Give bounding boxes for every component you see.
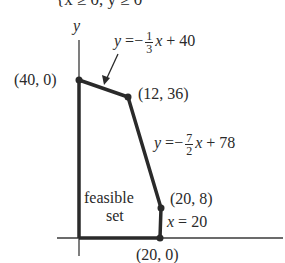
eq3-lhs: x: [167, 213, 174, 230]
arrow-line: [106, 54, 118, 80]
vertex-20-0: [157, 235, 164, 242]
eq1-fraction: 13: [145, 30, 153, 55]
eq2-lhs: y: [154, 134, 161, 151]
feasible-label-1: feasible: [84, 190, 134, 206]
vertex-label-12-36: (12, 36): [138, 86, 189, 102]
equation-line3: x = 20: [167, 214, 207, 230]
eq1-equals: =: [125, 32, 134, 49]
vertex-40-0: [76, 77, 83, 84]
eq3-rest: = 20: [178, 213, 207, 230]
eq2-numerator: 7: [185, 132, 193, 144]
eq1-sign: −: [134, 32, 143, 49]
eq2-denominator: 2: [185, 144, 193, 157]
y-axis-label: y: [73, 18, 80, 34]
vertex-20-8: [158, 205, 165, 212]
eq1-rest: + 40: [166, 32, 195, 49]
feasible-label-2: set: [106, 208, 124, 224]
eq2-equals: =: [165, 134, 174, 151]
vertex-label-20-8: (20, 8): [170, 191, 213, 207]
eq1-var: x: [155, 32, 162, 49]
eq1-denominator: 3: [145, 42, 153, 55]
vertex-label-40-0: (40, 0): [14, 72, 57, 88]
arrow-head-icon: [102, 75, 110, 85]
equation-line1: y =−13x + 40: [114, 30, 195, 55]
eq2-var: x: [195, 134, 202, 151]
equation-line2: y =−72x + 78: [154, 132, 235, 157]
eq1-lhs: y: [114, 32, 121, 49]
vertex-label-20-0: (20, 0): [136, 247, 179, 263]
eq2-rest: + 78: [206, 134, 235, 151]
eq2-sign: −: [174, 134, 183, 151]
eq1-numerator: 1: [145, 30, 153, 42]
eq2-fraction: 72: [185, 132, 193, 157]
vertex-12-36: [125, 94, 132, 101]
